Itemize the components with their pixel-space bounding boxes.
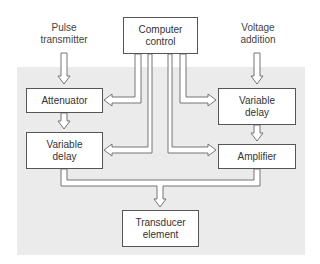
amplifier-block: Amplifier (218, 144, 296, 169)
pulse-transmitter-label: Pulse transmitter (28, 22, 100, 46)
arrow-control-to-attenuator (104, 54, 141, 106)
computer-control-block: Computer control (123, 17, 198, 54)
arrow-control-to-delay-right (180, 54, 216, 106)
voltage-addition-label: Voltage addition (222, 22, 294, 46)
attenuator-block: Attenuator (26, 88, 103, 113)
transducer-element-block: Transducer element (122, 210, 199, 247)
arrow-merge-to-transducer (61, 169, 260, 207)
arrow-delay-to-amplifier (251, 125, 263, 141)
variable-delay-right-block: Variable delay (218, 88, 296, 125)
arrow-attenuator-to-delay (58, 113, 70, 129)
arrow-voltage-to-delay (251, 53, 263, 84)
variable-delay-left-block: Variable delay (26, 132, 103, 169)
arrow-pulse-to-attenuator (58, 53, 70, 84)
